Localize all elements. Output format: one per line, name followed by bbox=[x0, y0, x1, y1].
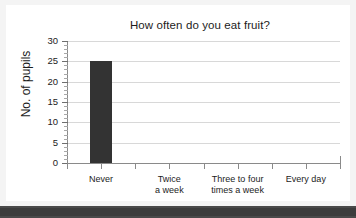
y-tick-minor bbox=[64, 86, 68, 87]
x-tick bbox=[67, 163, 68, 169]
y-tick-minor bbox=[64, 65, 68, 66]
y-tick-minor bbox=[64, 106, 68, 107]
y-tick-minor bbox=[64, 126, 68, 127]
bar bbox=[90, 61, 112, 163]
bar-chart: How often do you eat fruit? No. of pupil… bbox=[0, 0, 356, 206]
y-tick-minor bbox=[64, 147, 68, 148]
gridline bbox=[67, 41, 340, 42]
y-tick-minor bbox=[64, 90, 68, 91]
y-tick-major bbox=[62, 61, 68, 62]
x-category-label-line: times a week bbox=[204, 185, 272, 196]
y-axis-title: No. of pupils bbox=[19, 29, 33, 139]
y-tick-minor bbox=[64, 78, 68, 79]
x-tick bbox=[340, 163, 341, 169]
y-tick-minor bbox=[64, 155, 68, 156]
x-tick bbox=[169, 163, 170, 169]
x-category-label-line: Three to four bbox=[204, 174, 272, 185]
x-category-label-line: Twice bbox=[135, 174, 203, 185]
y-tick-minor bbox=[64, 139, 68, 140]
y-tick-major bbox=[62, 143, 68, 144]
y-tick-label: 5 bbox=[33, 138, 58, 148]
x-tick bbox=[204, 163, 205, 169]
bottom-strip-inner bbox=[0, 208, 356, 216]
x-category-label-line: Every day bbox=[272, 174, 340, 185]
x-category-label: Twicea week bbox=[135, 174, 203, 196]
screenshot-root: How often do you eat fruit? No. of pupil… bbox=[0, 0, 356, 218]
x-tick bbox=[135, 163, 136, 169]
y-tick-label: 25 bbox=[33, 56, 58, 66]
x-tick bbox=[306, 163, 307, 169]
y-tick-minor bbox=[64, 74, 68, 75]
y-tick-label: 0 bbox=[33, 158, 58, 168]
y-tick-minor bbox=[64, 94, 68, 95]
y-tick-major bbox=[62, 122, 68, 123]
x-category-label-line: a week bbox=[135, 185, 203, 196]
x-category-label: Every day bbox=[272, 174, 340, 185]
y-tick-major bbox=[62, 41, 68, 42]
x-category-label-line: Never bbox=[67, 174, 135, 185]
y-tick-label: 20 bbox=[33, 77, 58, 87]
y-tick-minor bbox=[64, 118, 68, 119]
bottom-strip bbox=[0, 206, 356, 218]
x-tick bbox=[238, 163, 239, 169]
x-category-label: Never bbox=[67, 174, 135, 185]
y-tick-label: 15 bbox=[33, 97, 58, 107]
y-tick-minor bbox=[64, 53, 68, 54]
chart-title: How often do you eat fruit? bbox=[60, 19, 340, 31]
y-tick-minor bbox=[64, 135, 68, 136]
y-tick-minor bbox=[64, 114, 68, 115]
y-tick-minor bbox=[64, 69, 68, 70]
x-category-label: Three to fourtimes a week bbox=[204, 174, 272, 196]
x-tick bbox=[272, 163, 273, 169]
y-tick-minor bbox=[64, 57, 68, 58]
y-tick-minor bbox=[64, 45, 68, 46]
y-tick-label: 30 bbox=[33, 36, 58, 46]
y-tick-label: 10 bbox=[33, 117, 58, 127]
y-tick-minor bbox=[64, 110, 68, 111]
y-tick-minor bbox=[64, 151, 68, 152]
y-tick-minor bbox=[64, 98, 68, 99]
y-tick-minor bbox=[64, 49, 68, 50]
y-tick-major bbox=[62, 102, 68, 103]
y-tick-major bbox=[62, 82, 68, 83]
plot-area bbox=[67, 41, 340, 163]
y-tick-minor bbox=[64, 130, 68, 131]
x-tick bbox=[101, 163, 102, 169]
y-tick-minor bbox=[64, 159, 68, 160]
